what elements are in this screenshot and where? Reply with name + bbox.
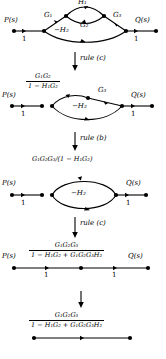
stage-3-output-gain: 1 <box>126 199 130 207</box>
stage-1-graph: P(s) Q(s) 1 1 G₁ H₁ G₂ G₃ −H₂ <box>0 0 166 52</box>
stage-3-output-label: Q(s) <box>126 179 141 187</box>
stage-5-numerator: G₁G₂G₃ <box>29 311 104 319</box>
stage-4-numerator: G₁G₂G₃ <box>29 241 104 249</box>
stage-1-branch-H1: H₁ <box>78 0 87 6</box>
stage-2-input-gain: 1 <box>21 110 25 118</box>
stage-5-graph: G₁G₂G₃ 1 − H₁G₂ + G₁G₂G₃H₂ <box>0 311 166 357</box>
stage-3-expression: G₁G₂G₃/(1 − H₁G₂) <box>32 155 92 163</box>
stage-2-branch-G3: G₃ <box>98 86 106 94</box>
stage-4-svg <box>0 262 166 280</box>
stage-3-graph: G₁G₂G₃/(1 − H₁G₂) P(s) Q(s) 1 1 −H₂ <box>0 155 166 213</box>
stage-1-branch-G3: G₃ <box>113 11 121 19</box>
stage-4-input-label: P(s) <box>2 252 16 260</box>
stage-4-denominator: 1 − H₁G₂ + G₁G₂G₃H₂ <box>29 251 104 259</box>
transition-4 <box>0 289 166 309</box>
stage-5-svg <box>0 333 166 349</box>
stage-2-graph: G₁G₂ 1 − H₁G₂ P(s) Q(s) 1 1 G₃ −H₂ <box>0 72 166 128</box>
transition-1-label: rule (c) <box>80 54 106 62</box>
stage-1-input-gain: 1 <box>22 35 26 43</box>
stage-1-branch-G2: G₂ <box>80 21 88 29</box>
stage-2-gain-fraction: G₁G₂ 1 − H₁G₂ <box>26 72 60 90</box>
stage-4-input-gain: 1 <box>44 271 48 279</box>
stage-4-output-label: Q(s) <box>128 252 143 260</box>
stage-1-output-gain: 1 <box>134 35 138 43</box>
transition-4-arrow <box>0 289 166 309</box>
stage-1-output-label: Q(s) <box>135 16 150 24</box>
transition-2-label: rule (b) <box>80 134 106 142</box>
stage-5-gain-fraction: G₁G₂G₃ 1 − H₁G₂ + G₁G₂G₃H₂ <box>29 311 104 329</box>
stage-1-branch-H2: −H₂ <box>54 26 69 34</box>
stage-3-input-label: P(s) <box>2 179 16 187</box>
stage-4-graph: G₁G₂G₃ 1 − H₁G₂ + G₁G₂G₃H₂ P(s) Q(s) 1 1 <box>0 241 166 289</box>
stage-2-denominator: 1 − H₁G₂ <box>26 82 60 90</box>
stage-2-branch-H2: −H₂ <box>72 102 87 110</box>
transition-3: rule (c) <box>0 213 166 239</box>
stage-2-output-label: Q(s) <box>131 91 146 99</box>
stage-2-numerator: G₁G₂ <box>26 72 60 80</box>
stage-4-output-gain: 1 <box>112 271 116 279</box>
stage-2-output-gain: 1 <box>131 110 135 118</box>
stage-4-gain-fraction: G₁G₂G₃ 1 − H₁G₂ + G₁G₂G₃H₂ <box>29 241 104 259</box>
transition-3-label: rule (c) <box>80 219 106 227</box>
stage-2-input-label: P(s) <box>2 91 16 99</box>
transition-1: rule (c) <box>0 50 166 72</box>
stage-5-denominator: 1 − H₁G₂ + G₁G₂G₃H₂ <box>29 321 104 329</box>
stage-3-input-gain: 1 <box>21 199 25 207</box>
stage-1-branch-G1: G₁ <box>44 11 52 19</box>
stage-1-input-label: P(s) <box>4 16 18 24</box>
transition-2: rule (b) <box>0 128 166 152</box>
stage-3-branch-H2: −H₂ <box>71 189 86 197</box>
